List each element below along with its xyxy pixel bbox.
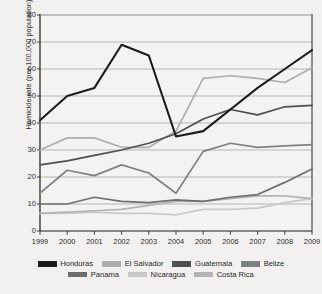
legend-item-el-salvador[interactable]: El Salvador [102,260,163,268]
legend-label: Costa Rica [217,271,254,279]
legend-item-costa-rica[interactable]: Costa Rica [194,271,254,279]
x-tick-label-2001: 2001 [79,238,109,245]
legend-label: Honduras [60,260,93,268]
homicide-rate-line-chart: Homicide rate (per 100,000 population) 8… [0,0,322,294]
legend-label: Panama [91,271,119,279]
y-tick-label-10: 10 [10,200,36,208]
chart-legend: HondurasEl SalvadorGuatemalaBelize Panam… [0,260,322,281]
legend-item-panama[interactable]: Panama [68,271,119,279]
legend-item-honduras[interactable]: Honduras [38,260,93,268]
y-axis-tick-labels: 80706050403020100 [8,0,36,294]
legend-swatch-icon-belize [241,261,260,267]
legend-label: Belize [264,260,285,268]
legend-label: El Salvador [125,260,164,268]
legend-swatch-icon-el-salvador [102,261,121,267]
y-tick-label-50: 50 [10,92,36,100]
legend-swatch-icon-costa-rica [194,272,213,278]
legend-row-1: HondurasEl SalvadorGuatemalaBelize [0,260,322,268]
y-tick-label-40: 40 [10,119,36,127]
x-tick-label-2007: 2007 [243,238,273,245]
legend-swatch-icon-nicaragua [128,272,147,278]
legend-swatch-icon-guatemala [172,261,191,267]
y-tick-label-80: 80 [10,11,36,19]
plot-area [0,0,322,294]
x-tick-label-2003: 2003 [134,238,164,245]
y-tick-label-60: 60 [10,65,36,73]
y-tick-label-0: 0 [10,227,36,235]
legend-label: Guatemala [195,260,232,268]
x-tick-label-2004: 2004 [161,238,191,245]
legend-label: Nicaragua [151,271,186,279]
x-tick-label-2000: 2000 [52,238,82,245]
x-tick-label-2008: 2008 [270,238,300,245]
x-tick-label-2002: 2002 [107,238,137,245]
y-tick-label-70: 70 [10,38,36,46]
y-tick-label-30: 30 [10,146,36,154]
legend-item-nicaragua[interactable]: Nicaragua [128,271,185,279]
x-tick-label-2006: 2006 [215,238,245,245]
legend-swatch-icon-panama [68,272,87,278]
legend-swatch-icon-honduras [38,261,57,267]
legend-row-2: PanamaNicaraguaCosta Rica [0,271,322,279]
x-tick-label-2009: 2009 [297,238,322,245]
x-tick-label-2005: 2005 [188,238,218,245]
legend-item-belize[interactable]: Belize [241,260,284,268]
y-tick-label-20: 20 [10,173,36,181]
legend-item-guatemala[interactable]: Guatemala [172,260,232,268]
x-tick-label-1999: 1999 [25,238,55,245]
